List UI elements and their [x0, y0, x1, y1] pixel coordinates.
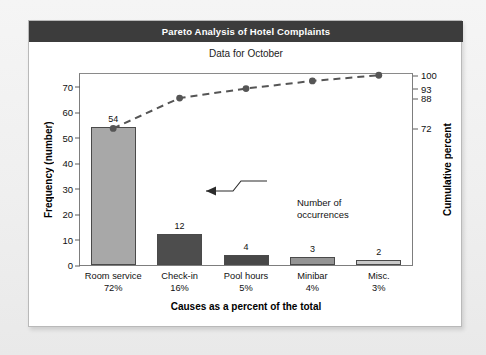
x-category-label: Room service72%: [85, 270, 142, 294]
x-category-name: Misc.: [368, 271, 390, 281]
y-tick-left: 10: [62, 234, 80, 245]
screenshot-root: Pareto Analysis of Hotel Complaints Data…: [0, 0, 486, 355]
y-tick-left: 30: [62, 183, 80, 194]
plot-inner: 0102030405060707288931005412432: [80, 74, 412, 265]
y-tick-left: 50: [62, 132, 80, 143]
x-category-name: Room service: [85, 271, 142, 281]
y-tick-left: 20: [62, 209, 80, 220]
x-category-name: Check-in: [161, 271, 198, 281]
x-category-percent: 72%: [85, 282, 142, 294]
chart-subtitle: Data for October: [29, 48, 463, 59]
y-tick-left: 0: [68, 260, 80, 271]
x-category-label: Check-in16%: [161, 270, 198, 294]
bar-value-label: 2: [376, 247, 381, 257]
y-tick-left: 40: [62, 158, 80, 169]
bar: [224, 255, 269, 265]
x-category-label: Pool hours5%: [224, 270, 268, 294]
x-category-name: Pool hours: [224, 271, 268, 281]
y-axis-label-left: Frequency (number): [41, 73, 55, 266]
annotation-line-1: Number of: [297, 197, 341, 208]
chart-title-band: Pareto Analysis of Hotel Complaints: [29, 21, 463, 42]
x-category-label: Misc.3%: [368, 270, 390, 294]
bar: [91, 127, 136, 265]
x-category-percent: 4%: [297, 282, 327, 294]
y-tick-left: 60: [62, 107, 80, 118]
bar-value-label: 3: [310, 244, 315, 254]
y-tick-left: 70: [62, 81, 80, 92]
x-category-name: Minibar: [297, 271, 327, 281]
bar: [290, 257, 335, 265]
annotation-label: Number of occurrences: [297, 197, 349, 221]
x-category-label: Minibar4%: [297, 270, 327, 294]
y-tick-right: 100: [412, 70, 437, 81]
bar-value-label: 4: [243, 242, 248, 252]
y-tick-right: 88: [412, 93, 432, 104]
bar: [157, 234, 202, 265]
annotation-line-2: occurrences: [297, 209, 349, 220]
bar-value-label: 12: [175, 221, 185, 231]
y-tick-right: 72: [412, 123, 432, 134]
x-category-percent: 3%: [368, 282, 390, 294]
bar-value-label: 54: [108, 114, 118, 124]
y-tick-right: 93: [412, 83, 432, 94]
y-axis-label-right: Cumulative percent: [440, 73, 454, 266]
plot-area: 0102030405060707288931005412432: [79, 73, 413, 266]
x-axis-label: Causes as a percent of the total: [29, 301, 463, 312]
chart-title: Pareto Analysis of Hotel Complaints: [162, 26, 331, 37]
chart-card: Pareto Analysis of Hotel Complaints Data…: [28, 20, 462, 327]
x-category-percent: 5%: [224, 282, 268, 294]
bar: [356, 260, 401, 265]
x-category-percent: 16%: [161, 282, 198, 294]
